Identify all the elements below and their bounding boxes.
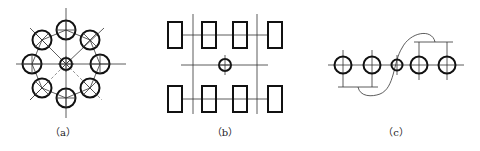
hole-bottom-right bbox=[81, 79, 100, 98]
figure-c bbox=[328, 33, 464, 95]
hole-bottom bbox=[56, 88, 76, 108]
figure-b bbox=[168, 14, 282, 114]
hole-top bbox=[56, 20, 76, 40]
hole-bottom-left bbox=[33, 79, 52, 98]
hole-top-left bbox=[33, 31, 52, 50]
hole-top-right bbox=[81, 31, 100, 50]
hole-right bbox=[90, 54, 110, 74]
figure-a bbox=[16, 8, 126, 118]
figure-a-label: （a） bbox=[50, 124, 76, 139]
figure-b-label: （b） bbox=[212, 124, 238, 139]
hole-left bbox=[22, 54, 42, 74]
figure-c-label: （c） bbox=[383, 124, 409, 139]
